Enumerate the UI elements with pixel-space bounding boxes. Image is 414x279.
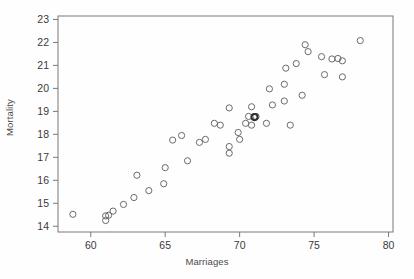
data-point <box>281 81 287 87</box>
data-point <box>321 72 327 78</box>
axes-frame <box>58 16 393 232</box>
data-point <box>110 208 116 214</box>
x-tick-label: 80 <box>383 239 395 251</box>
y-tick-label: 23 <box>37 13 49 25</box>
y-tick-label: 16 <box>37 174 49 186</box>
data-point <box>329 56 335 62</box>
data-point <box>293 60 299 66</box>
y-tick-label: 19 <box>37 105 49 117</box>
data-point <box>131 194 137 200</box>
data-point <box>226 143 232 149</box>
data-point <box>217 122 223 128</box>
data-point <box>161 181 167 187</box>
y-tick-label: 18 <box>37 128 49 140</box>
data-point <box>266 86 272 92</box>
data-point <box>248 122 254 128</box>
y-tick-label: 14 <box>37 220 49 232</box>
data-point <box>302 42 308 48</box>
data-point <box>357 37 363 43</box>
data-point <box>146 188 152 194</box>
data-point <box>263 120 269 126</box>
y-tick-label: 22 <box>37 36 49 48</box>
x-axis-tick-labels: 6065707580 <box>85 239 395 251</box>
data-point <box>134 172 140 178</box>
y-tick-label: 21 <box>37 59 49 71</box>
data-point <box>299 92 305 98</box>
y-tick-label: 17 <box>37 151 49 163</box>
x-tick-label: 60 <box>85 239 97 251</box>
data-point <box>237 136 243 142</box>
data-point-emphasized <box>251 114 257 120</box>
data-point <box>178 132 184 138</box>
data-point <box>226 150 232 156</box>
data-point <box>120 201 126 207</box>
data-point <box>248 104 254 110</box>
y-tick-label: 15 <box>37 197 49 209</box>
data-point <box>202 136 208 142</box>
y-axis-tick-labels: 14151617181920212223 <box>37 13 49 232</box>
data-point <box>196 139 202 145</box>
x-tick-label: 65 <box>159 239 171 251</box>
data-point <box>305 49 311 55</box>
data-point <box>318 54 324 60</box>
x-tick-label: 70 <box>234 239 246 251</box>
scatter-plot-figure: 6065707580 14151617181920212223 Marriage… <box>0 0 414 279</box>
data-point <box>184 158 190 164</box>
data-point <box>70 211 76 217</box>
data-point <box>243 120 249 126</box>
data-point <box>235 129 241 135</box>
data-point-group <box>70 37 364 223</box>
data-point <box>339 74 345 80</box>
data-point <box>162 165 168 171</box>
x-axis-ticks <box>91 232 389 237</box>
plot-canvas: 6065707580 14151617181920212223 <box>0 0 414 279</box>
data-point <box>170 137 176 143</box>
data-point <box>269 102 275 108</box>
data-point <box>287 122 293 128</box>
y-tick-label: 20 <box>37 82 49 94</box>
data-point <box>226 105 232 111</box>
x-tick-label: 75 <box>308 239 320 251</box>
data-point <box>281 98 287 104</box>
data-point <box>283 65 289 71</box>
y-axis-ticks <box>53 19 58 226</box>
data-point <box>211 120 217 126</box>
y-axis-title: Mortality <box>4 73 15 163</box>
x-axis-title: Marriages <box>0 256 414 267</box>
